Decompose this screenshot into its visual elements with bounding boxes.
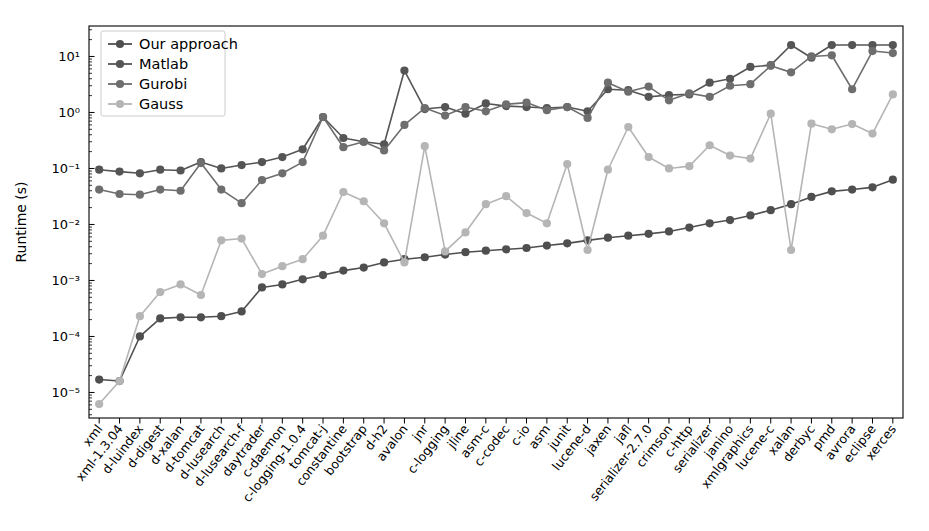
data-point xyxy=(726,75,734,83)
data-point xyxy=(848,185,856,193)
data-point xyxy=(828,41,836,49)
data-point xyxy=(828,187,836,195)
data-point xyxy=(502,192,510,200)
data-point xyxy=(156,288,164,296)
data-point xyxy=(258,270,266,278)
data-point xyxy=(502,100,510,108)
data-point xyxy=(583,114,591,122)
data-point xyxy=(868,47,876,55)
data-point xyxy=(421,104,429,112)
runtime-comparison-chart: 10¹10⁰10⁻¹10⁻²10⁻³10⁻⁴10⁻⁵ xmlxml-1.3.04… xyxy=(0,0,929,531)
data-point xyxy=(278,169,286,177)
data-point xyxy=(156,314,164,322)
data-point xyxy=(543,241,551,249)
chart-legend: Our approachMatlabGurobiGauss xyxy=(101,31,238,116)
data-point xyxy=(563,160,571,168)
data-point xyxy=(339,267,347,275)
data-point xyxy=(217,164,225,172)
legend-item-label: Gauss xyxy=(139,96,183,112)
y-tick-label: 10⁰ xyxy=(58,105,80,120)
data-point xyxy=(787,68,795,76)
data-point xyxy=(217,185,225,193)
data-point xyxy=(441,247,449,255)
data-point xyxy=(645,230,653,238)
data-point xyxy=(95,166,103,174)
data-point xyxy=(197,291,205,299)
data-point xyxy=(706,93,714,101)
data-point xyxy=(848,120,856,128)
data-point xyxy=(95,375,103,383)
data-point xyxy=(807,120,815,128)
data-point xyxy=(522,99,530,107)
y-tick-label: 10⁻¹ xyxy=(51,161,80,176)
chart-canvas: 10¹10⁰10⁻¹10⁻²10⁻³10⁻⁴10⁻⁵ xmlxml-1.3.04… xyxy=(0,0,929,531)
data-point xyxy=(848,85,856,93)
data-point xyxy=(787,41,795,49)
data-point xyxy=(889,41,897,49)
data-point xyxy=(482,107,490,115)
data-point xyxy=(238,234,246,242)
y-tick-label: 10⁻⁴ xyxy=(51,329,80,344)
data-point xyxy=(604,234,612,242)
data-point xyxy=(380,258,388,266)
y-tick-label: 10⁻⁵ xyxy=(51,385,80,400)
data-point xyxy=(746,80,754,88)
data-point xyxy=(645,82,653,90)
data-point xyxy=(176,313,184,321)
data-point xyxy=(645,93,653,101)
data-point xyxy=(197,159,205,167)
data-point xyxy=(665,96,673,104)
data-point xyxy=(828,125,836,133)
data-point xyxy=(115,377,123,385)
data-point xyxy=(380,146,388,154)
data-point xyxy=(136,312,144,320)
data-point xyxy=(258,176,266,184)
data-point xyxy=(238,307,246,315)
data-point xyxy=(563,103,571,111)
data-point xyxy=(156,185,164,193)
data-point xyxy=(604,79,612,87)
data-point xyxy=(441,103,449,111)
data-point xyxy=(889,90,897,98)
y-axis-title-group: Runtime (s) xyxy=(13,181,29,262)
data-point xyxy=(726,82,734,90)
data-point xyxy=(197,313,205,321)
data-point xyxy=(400,66,408,74)
y-axis-title: Runtime (s) xyxy=(13,181,29,262)
data-point xyxy=(665,227,673,235)
data-point xyxy=(115,190,123,198)
data-point xyxy=(482,247,490,255)
data-point xyxy=(848,41,856,49)
data-point xyxy=(746,155,754,163)
data-point xyxy=(624,232,632,240)
data-point xyxy=(868,183,876,191)
data-point xyxy=(746,211,754,219)
data-point xyxy=(176,187,184,195)
data-point xyxy=(217,312,225,320)
data-point xyxy=(685,89,693,97)
data-point xyxy=(543,219,551,227)
data-point xyxy=(360,263,368,271)
data-point xyxy=(95,400,103,408)
data-point xyxy=(400,258,408,266)
data-point xyxy=(136,332,144,340)
data-point xyxy=(767,62,775,70)
data-point xyxy=(767,206,775,214)
series-our-approach xyxy=(95,176,897,386)
data-point xyxy=(685,162,693,170)
data-point xyxy=(176,166,184,174)
data-point xyxy=(319,271,327,279)
x-axis-ticks: xmlxml-1.3.04d-luindexd-digestd-xaland-t… xyxy=(73,418,900,505)
data-point xyxy=(726,151,734,159)
data-point xyxy=(278,280,286,288)
data-point xyxy=(706,219,714,227)
data-point xyxy=(441,111,449,119)
data-point xyxy=(726,216,734,224)
data-point xyxy=(136,191,144,199)
legend-swatch-marker xyxy=(116,100,124,108)
data-point xyxy=(767,110,775,118)
data-point xyxy=(889,176,897,184)
data-point xyxy=(482,99,490,107)
data-point xyxy=(380,219,388,227)
legend-swatch-marker xyxy=(116,40,124,48)
